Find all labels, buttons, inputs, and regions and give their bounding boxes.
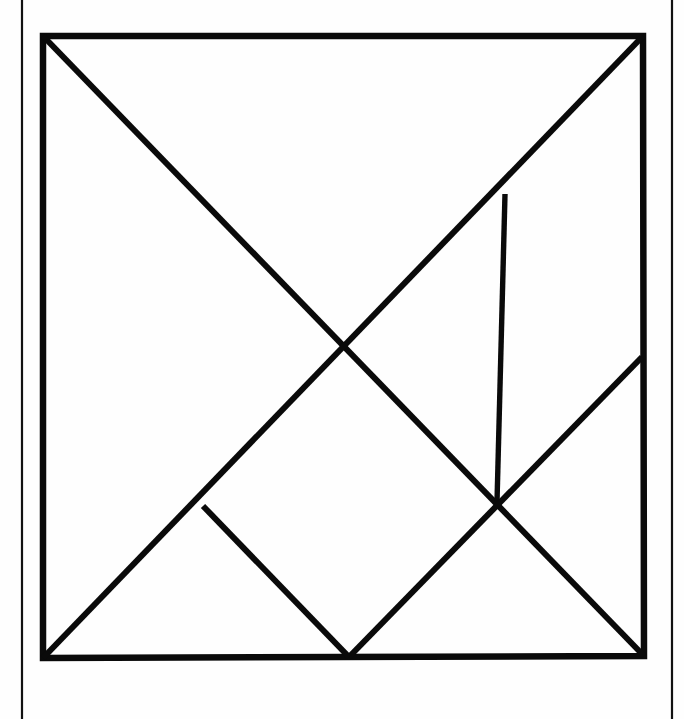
cut-left-lower-diagonal <box>203 506 349 657</box>
cut-vertical <box>497 194 505 502</box>
tangram-figure <box>0 0 684 719</box>
diagram-page <box>0 0 684 719</box>
